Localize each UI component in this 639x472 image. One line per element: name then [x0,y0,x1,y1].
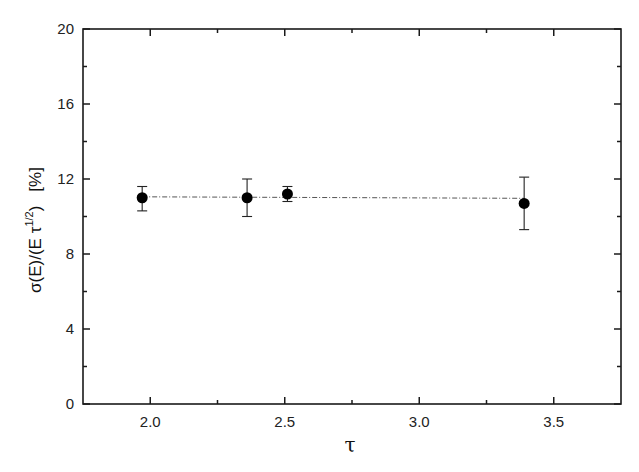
x-axis-label: τ [344,433,355,457]
data-point [519,177,530,230]
data-point [242,179,253,217]
y-label-sup: 1/2 [23,211,35,226]
y-tick-label: 16 [57,95,74,112]
fit-line [142,197,524,199]
plot-frame [83,29,621,404]
x-tick-label: 3.0 [409,413,430,430]
y-label-unit: [%] [26,167,45,192]
y-tick-label: 0 [66,395,74,412]
y-axis-label: σ(E)/(E τ1/2)[%] [23,167,45,293]
y-tick-label: 12 [57,170,74,187]
y-tick-label: 4 [66,320,74,337]
y-label-close: ) [26,206,45,212]
data-point [282,187,293,202]
x-tick-label: 2.5 [274,413,295,430]
marker-circle [242,192,253,203]
marker-circle [282,189,293,200]
data-points [137,177,530,230]
marker-circle [137,192,148,203]
y-tick-label: 8 [66,245,74,262]
x-tick-label: 2.0 [140,413,161,430]
axis-ticks [83,29,621,404]
svg-text:σ(E)/(E τ1/2)[%]: σ(E)/(E τ1/2)[%] [23,167,45,293]
marker-circle [519,198,530,209]
x-tick-label: 3.5 [543,413,564,430]
data-point [137,187,148,211]
tick-labels: 2.02.53.03.5048121620 [57,20,564,430]
y-tick-label: 20 [57,20,74,37]
fit-line-segment [142,197,524,199]
y-label-main: σ(E)/(E τ [26,226,45,293]
chart: 2.02.53.03.5048121620 τ σ(E)/(E τ1/2)[%] [0,0,639,472]
